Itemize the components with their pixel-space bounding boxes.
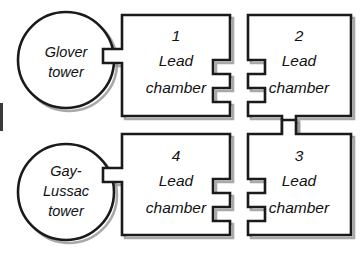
chamber-3-label-line2: chamber [269, 199, 330, 216]
chamber-3-label-line1: Lead [282, 172, 318, 189]
left-edge-artifact [0, 103, 3, 131]
gay-lussac-tower-label-line2: Lussac [43, 183, 90, 199]
gay-lussac-tower-label-line1: Gay- [50, 163, 82, 179]
chamber-2-label-line1: Lead [282, 52, 318, 69]
chamber-4-number: 4 [172, 147, 181, 164]
chamber-2-number: 2 [294, 27, 304, 44]
chamber-1-label-line1: Lead [159, 52, 195, 69]
glover-tower-label-line2: tower [48, 64, 85, 80]
chamber-2-label-line2: chamber [269, 79, 330, 96]
chamber-4-label-line2: chamber [146, 199, 207, 216]
glover-tower-label-line1: Glover [45, 44, 89, 60]
lead-chamber-process-diagram: Glover tower Gay- Lussac tower 1 Lead ch… [0, 0, 362, 253]
chamber-1-number: 1 [172, 27, 181, 44]
diagram-canvas: Glover tower Gay- Lussac tower 1 Lead ch… [0, 0, 362, 253]
glover-tower-circle[interactable] [18, 12, 114, 108]
gay-lussac-tower-label-line3: tower [48, 203, 85, 219]
chamber-3-number: 3 [295, 147, 304, 164]
chamber-1-label-line2: chamber [146, 79, 207, 96]
chamber-4-label-line1: Lead [159, 172, 195, 189]
